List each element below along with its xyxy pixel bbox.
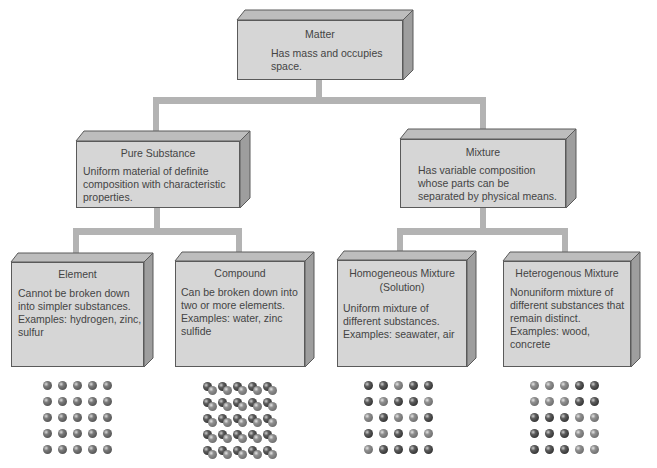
- atom-icon: [590, 445, 599, 454]
- atom-icon: [268, 418, 277, 427]
- atom-icon: [208, 434, 217, 443]
- atom-icon: [590, 397, 599, 406]
- atom-icon: [424, 381, 433, 390]
- atom-icon: [530, 413, 539, 422]
- homogeneous-mixture-title: Homogeneous Mixture: [337, 267, 467, 279]
- atom-icon: [73, 413, 82, 422]
- atom-icon: [43, 381, 52, 390]
- atom-icon: [238, 386, 247, 395]
- heterogenous-mixture-title: Heterogenous Mixture: [503, 267, 631, 279]
- atom-icon: [560, 429, 569, 438]
- atom-icon: [530, 381, 539, 390]
- atom-icon: [575, 381, 584, 390]
- element-description: Cannot be broken down into simpler subst…: [18, 287, 142, 339]
- compound-title: Compound: [175, 267, 305, 279]
- atom-icon: [364, 413, 373, 422]
- atom-icon: [43, 397, 52, 406]
- atom-icon: [58, 445, 67, 454]
- atom-icon: [424, 429, 433, 438]
- atom-icon: [575, 397, 584, 406]
- atom-icon: [394, 381, 403, 390]
- atom-icon: [73, 429, 82, 438]
- atom-icon: [394, 429, 403, 438]
- element-box: Element Cannot be broken down into simpl…: [11, 262, 144, 367]
- atom-icon: [530, 445, 539, 454]
- atom-icon: [253, 434, 262, 443]
- atom-icon: [409, 429, 418, 438]
- mixture-title: Mixture: [400, 146, 566, 158]
- atom-icon: [238, 450, 247, 459]
- atom-icon: [409, 397, 418, 406]
- atom-icon: [268, 402, 277, 411]
- connector-element-drop: [73, 228, 79, 256]
- atom-icon: [379, 429, 388, 438]
- mixture-box: Mixture Has variable composition whose p…: [400, 139, 566, 208]
- atom-icon: [103, 397, 112, 406]
- atom-icon: [268, 386, 277, 395]
- atom-icon: [88, 413, 97, 422]
- atom-icon: [268, 434, 277, 443]
- atom-icon: [103, 445, 112, 454]
- atom-icon: [88, 445, 97, 454]
- connector-pure-bar: [73, 228, 242, 235]
- compound-description: Can be broken down into two or more elem…: [181, 286, 303, 338]
- connector-root-bar: [153, 97, 486, 104]
- atom-icon: [545, 381, 554, 390]
- atom-icon: [379, 397, 388, 406]
- matter-title: Matter: [237, 28, 403, 40]
- atom-icon: [560, 381, 569, 390]
- atom-icon: [223, 386, 232, 395]
- atom-icon: [253, 450, 262, 459]
- heterogenous-mixture-description: Nonuniform mixture of different substanc…: [510, 286, 630, 351]
- atom-icon: [545, 429, 554, 438]
- atom-icon: [58, 381, 67, 390]
- atom-icon: [379, 445, 388, 454]
- atom-icon: [238, 418, 247, 427]
- heterogenous-mixture-box: Heterogenous Mixture Nonuniform mixture …: [503, 261, 631, 367]
- atom-icon: [424, 397, 433, 406]
- matter-description: Has mass and occupies space.: [271, 47, 389, 73]
- atom-icon: [58, 429, 67, 438]
- atom-icon: [103, 429, 112, 438]
- atom-icon: [253, 402, 262, 411]
- atom-icon: [409, 413, 418, 422]
- atom-icon: [43, 429, 52, 438]
- atom-icon: [530, 429, 539, 438]
- atom-icon: [73, 445, 82, 454]
- atom-icon: [364, 381, 373, 390]
- atom-icon: [223, 450, 232, 459]
- atom-icon: [590, 429, 599, 438]
- mixture-description: Has variable composition whose parts can…: [418, 164, 558, 203]
- pure-substance-description: Uniform material of definite composition…: [83, 165, 235, 204]
- atom-icon: [379, 413, 388, 422]
- atom-icon: [58, 413, 67, 422]
- atom-icon: [424, 413, 433, 422]
- atom-icon: [394, 413, 403, 422]
- atom-icon: [379, 381, 388, 390]
- atom-icon: [43, 445, 52, 454]
- atom-icon: [394, 397, 403, 406]
- atom-icon: [223, 402, 232, 411]
- connector-heterogeneous-drop: [562, 228, 568, 255]
- atom-icon: [364, 445, 373, 454]
- atom-icon: [43, 413, 52, 422]
- atom-icon: [223, 434, 232, 443]
- atom-icon: [575, 445, 584, 454]
- atom-icon: [590, 381, 599, 390]
- atom-icon: [560, 445, 569, 454]
- atom-icon: [364, 397, 373, 406]
- homogeneous-mixture-description: Uniform mixture of different substances.…: [343, 302, 465, 341]
- atom-icon: [208, 450, 217, 459]
- homogeneous-mixture-subtitle: (Solution): [337, 281, 467, 293]
- pure-substance-title: Pure Substance: [76, 147, 240, 159]
- connector-compound-drop: [236, 228, 242, 255]
- atom-icon: [208, 418, 217, 427]
- atom-icon: [545, 445, 554, 454]
- atom-icon: [223, 418, 232, 427]
- atom-icon: [73, 381, 82, 390]
- atom-icon: [238, 402, 247, 411]
- atom-icon: [409, 445, 418, 454]
- atom-icon: [409, 381, 418, 390]
- atom-icon: [560, 413, 569, 422]
- atom-icon: [575, 413, 584, 422]
